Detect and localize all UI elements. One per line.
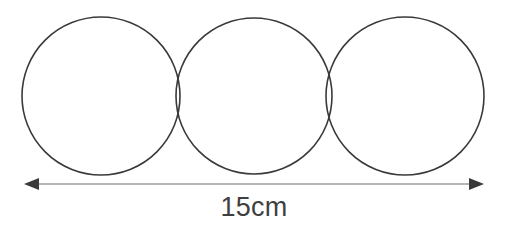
circle-middle: [176, 18, 332, 174]
dimension-label: 15cm: [221, 192, 288, 222]
arrow-head-right-icon: [469, 178, 484, 190]
figure-canvas: 15cm: [0, 0, 507, 227]
circle-left: [22, 17, 180, 175]
circle-right: [326, 17, 484, 175]
geometry-figure: 15cm: [0, 0, 507, 227]
arrow-head-left-icon: [24, 178, 39, 190]
